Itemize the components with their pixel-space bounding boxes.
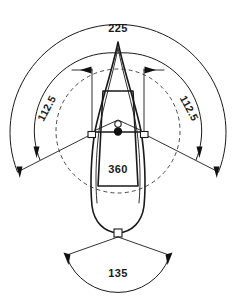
stern-sector-label: 135 [108, 267, 127, 279]
diagram-canvas: 225 112.5 112.5 [0, 0, 236, 296]
stern-sector-group: 135 [64, 237, 173, 292]
starboard-sidelight-icon [141, 132, 149, 138]
masthead-pointer-arrowhead-right [145, 67, 157, 74]
masthead-light-icon [114, 127, 122, 135]
allround-circle-label: 360 [108, 163, 127, 175]
masthead-arc-right-boundary [144, 134, 219, 172]
stern-sector-left-boundary [67, 237, 118, 255]
hull-outline [91, 42, 145, 233]
masthead-pointer-arrowhead-left [80, 67, 92, 74]
starboard-sidelight-arc-label: 112.5 [178, 93, 201, 123]
navigation-lights-diagram: 225 112.5 112.5 [0, 0, 236, 296]
masthead-arc-225 [10, 24, 226, 172]
port-sidelight-arc-label: 112.5 [35, 93, 58, 123]
boat-hull-group [91, 42, 145, 233]
allround-light-icon [115, 121, 121, 127]
port-sidelight-icon [88, 132, 96, 138]
masthead-arc-left-boundary [18, 134, 93, 172]
masthead-arc-label: 225 [108, 22, 127, 34]
stern-light-icon [114, 229, 122, 237]
stern-sector-right-boundary [118, 237, 169, 255]
